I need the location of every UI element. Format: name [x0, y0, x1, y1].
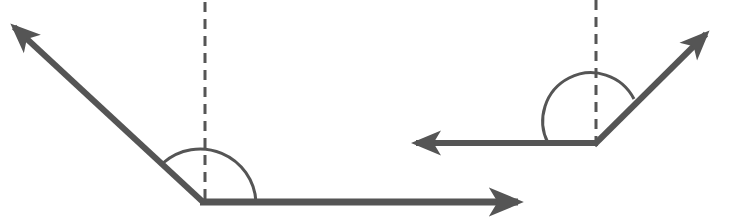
angle-right — [416, 0, 706, 145]
angle-arc — [543, 73, 634, 143]
ray-up-right-arrow-icon — [594, 34, 706, 145]
angles-diagram — [0, 0, 729, 220]
angle-left — [14, 2, 518, 202]
ray-up-left-arrow-icon — [14, 27, 203, 202]
